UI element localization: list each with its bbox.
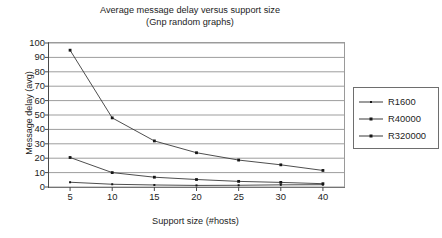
chart-title-line2: (Gnp random graphs): [40, 16, 340, 28]
y-tick-label: 30: [35, 139, 45, 148]
data-point: [69, 181, 71, 183]
data-point: [153, 176, 156, 179]
data-point: [153, 140, 156, 143]
data-point: [195, 178, 198, 181]
legend-item-r320000[interactable]: R320000: [354, 127, 438, 144]
x-tick-label: 20: [191, 192, 201, 201]
data-point: [279, 163, 282, 166]
y-tick-label: 100: [29, 38, 45, 47]
x-tick-label: 30: [276, 192, 286, 201]
y-tick-label: 50: [35, 110, 45, 119]
data-series-layer: [49, 43, 344, 187]
y-tick-label: 80: [35, 67, 45, 76]
data-point: [322, 182, 325, 185]
y-tick-label: 40: [35, 125, 45, 134]
legend-label: R40000: [388, 113, 421, 124]
data-point: [111, 116, 114, 119]
legend-item-r40000[interactable]: R40000: [354, 110, 438, 127]
legend-swatch-icon: [359, 131, 383, 141]
y-tick-label: 10: [35, 168, 45, 177]
x-axis-label: Support size (#hosts): [48, 216, 343, 226]
data-point: [237, 159, 240, 162]
data-point: [196, 184, 198, 186]
legend-item-r1600[interactable]: R1600: [354, 93, 438, 110]
chart-title: Average message delay versus support siz…: [40, 4, 340, 28]
data-point: [111, 183, 113, 185]
data-point: [111, 171, 114, 174]
data-point: [280, 184, 282, 186]
data-point: [153, 184, 155, 186]
y-tick-label: 20: [35, 153, 45, 162]
data-point: [279, 181, 282, 184]
chart-figure: Average message delay versus support siz…: [0, 0, 442, 238]
y-tick-label: 0: [40, 182, 45, 191]
chart-legend: R1600R40000R320000: [353, 87, 439, 149]
x-tick-label: 15: [149, 192, 159, 201]
legend-label: R320000: [388, 130, 426, 141]
x-tick-label: 5: [67, 192, 72, 201]
x-tick-label: 25: [233, 192, 243, 201]
legend-swatch-icon: [359, 97, 383, 107]
data-point: [237, 180, 240, 183]
data-point: [238, 184, 240, 186]
data-point: [195, 151, 198, 154]
y-tick-label: 60: [35, 96, 45, 105]
x-tick-label: 40: [318, 192, 328, 201]
legend-label: R1600: [388, 96, 416, 107]
x-tick-label: 10: [107, 192, 117, 201]
y-axis-label: Message delay (avg): [24, 38, 34, 188]
data-point: [69, 49, 72, 52]
y-tick-label: 70: [35, 81, 45, 90]
plot-area: 0102030405060708090100 5101520253040: [48, 42, 345, 188]
data-point: [69, 156, 72, 159]
y-tick-label: 90: [35, 53, 45, 62]
legend-swatch-icon: [359, 114, 383, 124]
chart-title-line1: Average message delay versus support siz…: [40, 4, 340, 16]
data-point: [322, 169, 325, 172]
